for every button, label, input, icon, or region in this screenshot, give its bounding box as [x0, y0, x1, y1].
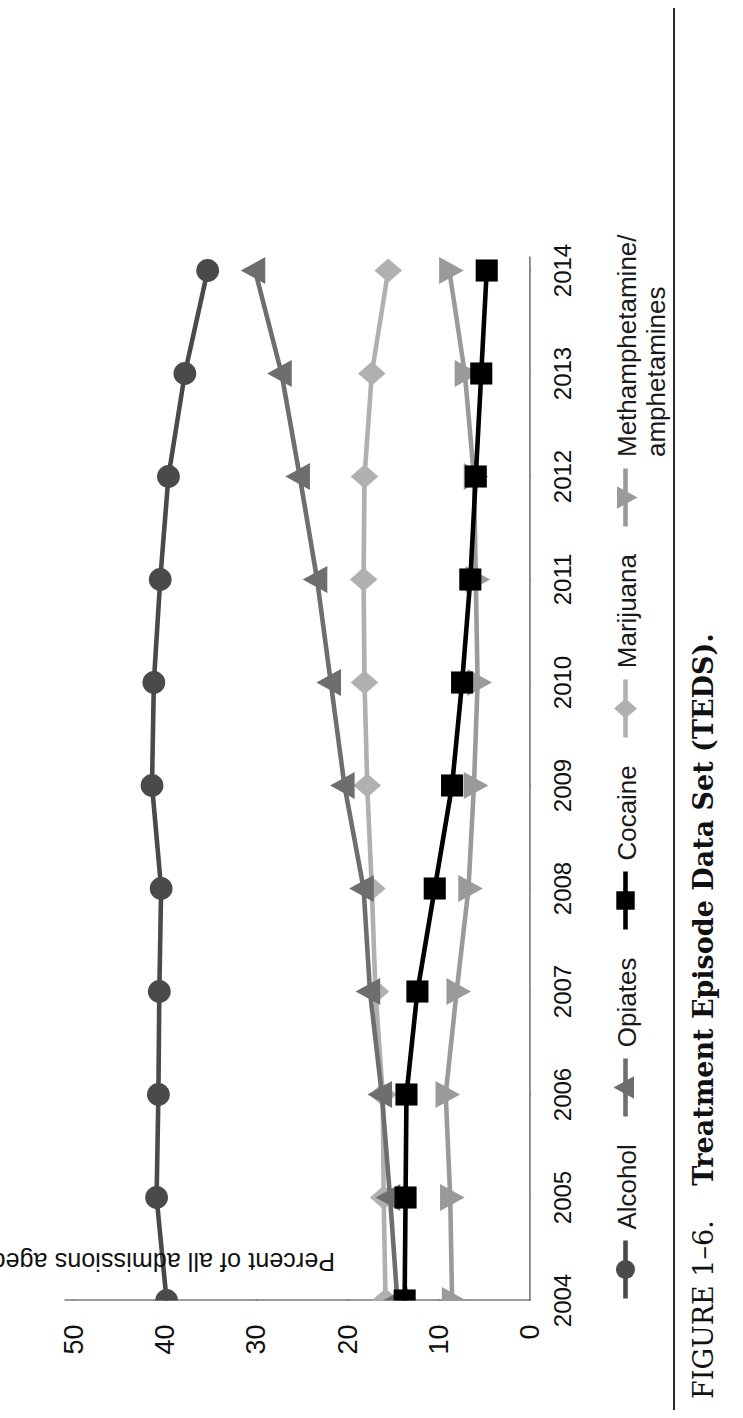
data-point-marker [459, 568, 481, 590]
series-alcohol [140, 259, 218, 1300]
data-point-marker [614, 698, 637, 718]
data-point-marker [149, 877, 172, 900]
legend-label: Alcohol [612, 1144, 641, 1229]
legend-label: Methamphetamine/ amphetamines [612, 234, 670, 457]
caption-divider-rule [673, 8, 675, 1410]
data-point-marker [350, 670, 378, 694]
data-point-marker [464, 465, 486, 487]
x-tick-label: 2011 [548, 544, 576, 614]
x-tick-label: 2005 [548, 1162, 576, 1232]
data-point-marker [148, 568, 171, 591]
data-point-marker [616, 1260, 635, 1279]
data-point-marker [470, 362, 492, 384]
data-point-marker [358, 361, 386, 385]
y-tick-label: 20 [332, 1324, 363, 1376]
y-tick-label: 50 [59, 1324, 90, 1376]
data-point-marker [374, 258, 402, 282]
legend-label: Opiates [612, 957, 641, 1047]
series-marijuana [349, 258, 401, 1300]
data-point-marker [394, 1186, 416, 1208]
circle-marker-icon [610, 1238, 640, 1300]
legend-item-marijuana[interactable]: Marijuana [612, 554, 642, 739]
x-tick-label: 2007 [548, 956, 576, 1026]
x-tick-label: 2006 [548, 1059, 576, 1129]
y-axis-label: Percent of all admissions aged 12 and ol… [5, 1247, 335, 1276]
data-point-marker [142, 671, 165, 694]
data-point-marker [393, 1289, 415, 1300]
x-tick-label: 2012 [548, 441, 576, 511]
caption-title: Treatment Episode Data Set (TEDS). [688, 633, 719, 1186]
x-tick-label: 2013 [548, 338, 576, 408]
caption-figure-number: FIGURE 1–6. [688, 1220, 719, 1399]
data-point-marker [240, 257, 265, 284]
x-tick-label: 2004 [548, 1265, 576, 1335]
figure-caption: FIGURE 1–6. Treatment Episode Data Set (… [667, 0, 739, 1418]
data-point-marker [349, 567, 377, 591]
data-point-marker [155, 1289, 178, 1300]
data-point-marker [451, 671, 473, 693]
y-tick-label: 30 [241, 1324, 272, 1376]
legend-label: Cocaine [612, 765, 641, 860]
y-tick-label: 10 [423, 1324, 454, 1376]
caption-text-block: FIGURE 1–6. Treatment Episode Data Set (… [688, 19, 719, 1399]
data-point-marker [423, 877, 445, 899]
data-point-marker [475, 259, 497, 281]
chart-canvas: 01020304050 2004200520062007200820092010… [0, 0, 743, 1418]
data-point-marker [145, 1186, 168, 1209]
legend-item-opiates[interactable]: Opiates [612, 957, 642, 1118]
square-marker-icon [610, 869, 640, 931]
data-point-marker [353, 773, 381, 797]
y-tick-label: 0 [515, 1324, 546, 1376]
series-cocaine [393, 259, 497, 1300]
data-point-marker [616, 891, 634, 909]
x-tick-label: 2009 [548, 750, 576, 820]
data-point-marker [395, 1083, 417, 1105]
x-tick-label: 2008 [548, 853, 576, 923]
data-point-marker [406, 980, 428, 1002]
triangle-left-marker-icon [610, 466, 640, 528]
data-point-marker [441, 774, 463, 796]
triangle-marker-icon [610, 1056, 640, 1118]
data-point-marker [196, 259, 219, 282]
legend-item-cocaine[interactable]: Cocaine [612, 765, 642, 931]
data-point-marker [350, 464, 378, 488]
x-tick-label: 2014 [548, 235, 576, 305]
chart-rotation-container: 01020304050 2004200520062007200820092010… [0, 0, 743, 1418]
figure-root: 01020304050 2004200520062007200820092010… [0, 0, 743, 1418]
x-tick-label: 2010 [548, 647, 576, 717]
data-point-marker [157, 465, 180, 488]
y-tick-label: 40 [150, 1324, 181, 1376]
data-point-marker [173, 362, 196, 385]
legend-item-alcohol[interactable]: Alcohol [612, 1144, 642, 1300]
data-point-marker [147, 980, 170, 1003]
data-point-marker [140, 774, 163, 797]
data-point-marker [147, 1083, 170, 1106]
legend-label: Marijuana [612, 554, 641, 668]
legend-item-methamphetamine[interactable]: Methamphetamine/ amphetamines [612, 234, 670, 528]
line-chart-plot [60, 240, 530, 1300]
diamond-marker-icon [610, 677, 640, 739]
